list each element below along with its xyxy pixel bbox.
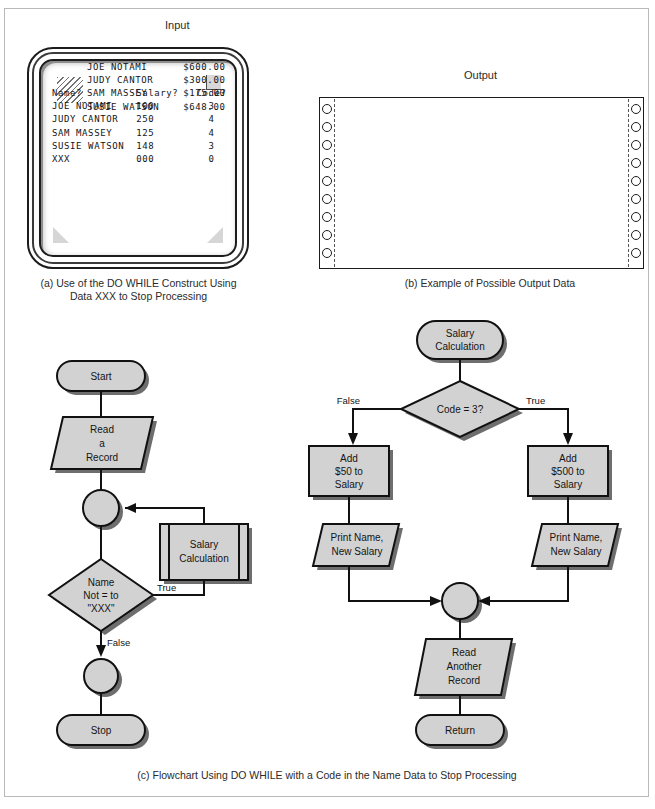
caption-a-line1: (a) Use of the DO WHILE Construct Using: [31, 277, 246, 290]
tractor-hole: [322, 194, 332, 204]
node-print-right-line2: New Salary: [550, 546, 601, 557]
screen-corner-bottom-left: [53, 227, 69, 243]
printout-data-listing: JOE NOTAMI $600.00 JUDY CANTOR $300.00 S…: [87, 61, 225, 114]
tractor-hole: [322, 230, 332, 240]
tractor-hole: [631, 212, 641, 222]
tractor-hole: [322, 212, 332, 222]
input-label: Input: [165, 19, 189, 31]
node-add-50-line2: $50 to: [335, 466, 363, 477]
caption-a-line2: Data XXX to Stop Processing: [31, 290, 246, 303]
flowchart-salary-calculation: Salary Calculation Code = 3? False True: [309, 321, 622, 749]
connector-exit-junction[interactable]: [84, 659, 118, 693]
node-sub-title[interactable]: [417, 321, 503, 359]
tractor-hole: [322, 176, 332, 186]
arrow-false-down: [96, 645, 106, 657]
node-read-another-line2: Another: [446, 661, 482, 672]
node-read-another-line1: Read: [452, 647, 476, 658]
flowchart-area: Start Read a Record: [5, 309, 655, 764]
flowchart-main: Start Read a Record: [49, 361, 252, 749]
screen-corner-bottom-right: [207, 227, 223, 243]
tractor-hole: [322, 248, 332, 258]
arrow-false-left: [348, 433, 358, 445]
tractor-strip-right: [622, 97, 644, 269]
tractor-hole: [631, 104, 641, 114]
connector-merge-junction[interactable]: [442, 583, 478, 619]
node-return-label: Return: [445, 725, 475, 736]
arrow-true-right: [563, 433, 573, 445]
tractor-hole: [631, 140, 641, 150]
arrow-merge-from-left: [430, 596, 442, 606]
printout-paper: [319, 97, 644, 269]
arrow-into-loop-connector: [125, 503, 136, 513]
node-read-record-line2: a: [99, 438, 105, 449]
node-read-record-line3: Record: [86, 452, 118, 463]
tractor-hole: [631, 176, 641, 186]
output-label: Output: [464, 69, 497, 81]
node-print-left-line1: Print Name,: [331, 532, 384, 543]
node-decision-line1: Name: [88, 577, 115, 588]
printout-illustration: [319, 97, 644, 269]
tractor-hole: [631, 194, 641, 204]
node-stop-label: Stop: [91, 725, 112, 736]
tractor-hole: [631, 248, 641, 258]
node-sub-title-line1: Salary: [446, 328, 474, 339]
node-decision-code-label: Code = 3?: [437, 404, 484, 415]
node-print-right[interactable]: [532, 524, 618, 566]
caption-b: (b) Example of Possible Output Data: [375, 277, 605, 290]
node-salary-calculation-line1: Salary: [190, 539, 218, 550]
tractor-hole: [631, 230, 641, 240]
tractor-hole: [322, 158, 332, 168]
connector-loop-junction[interactable]: [83, 490, 119, 526]
node-print-left-line2: New Salary: [331, 546, 382, 557]
figure-frame: Input Name? Salary? Code? JOE NOTAMI 100…: [4, 8, 649, 797]
node-add-500-line1: Add: [559, 453, 577, 464]
tractor-hole: [322, 104, 332, 114]
tractor-hole: [631, 122, 641, 132]
tractor-hole: [322, 140, 332, 150]
node-salary-calculation-call[interactable]: [160, 524, 248, 580]
edge-label-true-main: True: [157, 582, 176, 593]
perforation-line-right: [628, 99, 629, 267]
node-decision-line3: "XXX": [87, 603, 115, 614]
node-add-50-line1: Add: [340, 453, 358, 464]
node-print-right-line1: Print Name,: [550, 532, 603, 543]
edge-label-false-main: False: [107, 637, 130, 648]
node-decision-line2: Not = to: [83, 590, 119, 601]
tractor-hole: [322, 122, 332, 132]
node-start-label: Start: [90, 371, 111, 382]
node-read-another-line3: Record: [448, 675, 480, 686]
caption-a: (a) Use of the DO WHILE Construct Using …: [31, 277, 246, 303]
tractor-hole: [631, 158, 641, 168]
node-read-record-line1: Read: [90, 424, 114, 435]
node-print-left[interactable]: [313, 524, 399, 566]
node-add-500-line2: $500 to: [551, 466, 585, 477]
edge-label-false-sub: False: [337, 395, 360, 406]
edge-label-true-sub: True: [526, 395, 545, 406]
node-add-50-line3: Salary: [335, 479, 363, 490]
caption-c: (c) Flowchart Using DO WHILE with a Code…: [27, 769, 627, 782]
perforation-line-left: [334, 99, 335, 267]
node-add-500-line3: Salary: [554, 479, 582, 490]
tractor-strip-left: [319, 97, 341, 269]
node-sub-title-line2: Calculation: [435, 341, 484, 352]
node-salary-calculation-line2: Calculation: [179, 553, 228, 564]
